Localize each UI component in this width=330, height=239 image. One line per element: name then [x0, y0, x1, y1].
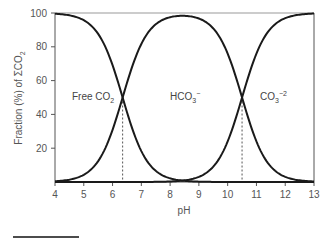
chart: 20406080100 45678910111213 pH Fraction (…	[0, 0, 330, 239]
x-tick-label: 9	[196, 189, 202, 200]
y-axis-ticks: 20406080100	[30, 8, 55, 154]
pka-reference-lines	[123, 98, 242, 183]
y-tick-label: 40	[36, 109, 48, 120]
x-tick-label: 6	[110, 189, 116, 200]
x-tick-label: 12	[280, 189, 292, 200]
y-tick-label: 80	[36, 41, 48, 52]
x-tick-label: 8	[167, 189, 173, 200]
y-tick-label: 20	[36, 143, 48, 154]
x-axis-label: pH	[178, 205, 191, 216]
y-tick-label: 100	[30, 8, 47, 19]
y-tick-label: 60	[36, 75, 48, 86]
x-tick-label: 13	[308, 189, 320, 200]
label-carbonate: CO3−2	[260, 90, 287, 104]
label-free-co2: Free CO2	[72, 91, 114, 104]
label-bicarbonate: HCO3−	[170, 90, 200, 104]
x-tick-label: 7	[139, 189, 145, 200]
x-axis-ticks: 45678910111213	[52, 182, 320, 200]
x-tick-label: 10	[222, 189, 234, 200]
x-tick-label: 4	[52, 189, 58, 200]
x-tick-label: 5	[81, 189, 87, 200]
y-axis-label: Fraction (%) of ΣCO2	[13, 51, 26, 145]
x-tick-label: 11	[251, 189, 262, 200]
